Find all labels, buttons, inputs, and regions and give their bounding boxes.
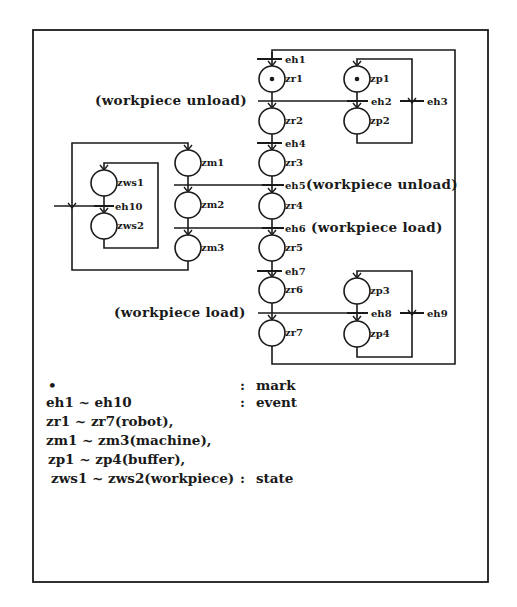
annotation-eh5-workpiece-unload: (workpiece unload): [306, 176, 458, 192]
svg-text:zr1 ~ zr7(robot),: zr1 ~ zr7(robot),: [46, 413, 173, 429]
svg-text:eh6: eh6: [285, 223, 306, 234]
legend: • : mark eh1 ~ eh10 : event zr1 ~ zr7(ro…: [46, 377, 298, 486]
svg-text:eh9: eh9: [427, 308, 448, 319]
svg-text:•: •: [48, 377, 57, 393]
svg-text:mark: mark: [256, 377, 296, 393]
outer-frame: [33, 30, 488, 582]
svg-text:zr2: zr2: [285, 115, 303, 126]
svg-text:zws1 ~ zws2(workpiece): zws1 ~ zws2(workpiece): [51, 470, 234, 486]
svg-text::: :: [240, 394, 245, 410]
svg-text:zp3: zp3: [370, 285, 390, 296]
svg-text::: :: [240, 470, 245, 486]
transition-eh7: eh7: [257, 266, 306, 277]
annotation-eh8-workpiece-load: (workpiece load): [114, 304, 246, 320]
svg-text:event: event: [256, 394, 298, 410]
svg-text:zr7: zr7: [285, 327, 303, 338]
token-mark: [270, 77, 275, 82]
place-zp2: zp2: [344, 108, 390, 134]
annotation-eh6-workpiece-load: (workpiece load): [311, 219, 443, 235]
svg-text:zp2: zp2: [370, 115, 390, 126]
svg-text:eh10: eh10: [115, 201, 143, 212]
svg-text:zp4: zp4: [370, 328, 390, 339]
transition-eh9: eh9: [400, 308, 448, 319]
svg-text:zm1 ~ zm3(machine),: zm1 ~ zm3(machine),: [46, 432, 211, 448]
svg-text:eh8: eh8: [371, 308, 392, 319]
place-zws1: zws1: [91, 170, 144, 196]
svg-text:eh3: eh3: [427, 96, 448, 107]
legend-row-workpiece-state: zws1 ~ zws2(workpiece) : state: [51, 470, 293, 486]
svg-text:state: state: [256, 470, 293, 486]
petri-net-diagram: eh1 eh2 eh3 eh4 eh5 eh6 eh7 eh8: [0, 0, 517, 607]
svg-text:zm2: zm2: [201, 199, 224, 210]
svg-text:eh1 ~ eh10: eh1 ~ eh10: [46, 394, 132, 410]
transition-eh3: eh3: [400, 96, 448, 107]
legend-row-buffer: zp1 ~ zp4(buffer),: [48, 451, 185, 467]
svg-text:zws1: zws1: [117, 177, 144, 188]
svg-text:zm3: zm3: [201, 242, 224, 253]
transition-eh4: eh4: [257, 138, 306, 149]
place-zr3: zr3: [259, 150, 303, 176]
svg-text:eh5: eh5: [285, 180, 306, 191]
svg-text:eh4: eh4: [285, 138, 306, 149]
svg-text:zr3: zr3: [285, 157, 303, 168]
place-zws2: zws2: [91, 213, 144, 239]
token-mark: [355, 77, 360, 82]
place-zm2: zm2: [175, 192, 224, 218]
legend-row-machine: zm1 ~ zm3(machine),: [46, 432, 211, 448]
transition-eh2: eh2: [347, 96, 392, 107]
svg-text:zp1: zp1: [370, 73, 390, 84]
svg-text:zr6: zr6: [285, 284, 303, 295]
annotation-eh2-workpiece-unload: (workpiece unload): [95, 92, 247, 108]
place-zr2: zr2: [259, 108, 303, 134]
legend-row-event: eh1 ~ eh10 : event: [46, 394, 298, 410]
svg-text:zp1 ~ zp4(buffer),: zp1 ~ zp4(buffer),: [48, 451, 185, 467]
svg-text:zws2: zws2: [117, 220, 144, 231]
svg-text:zr5: zr5: [285, 242, 303, 253]
place-zr7: zr7: [259, 320, 303, 346]
svg-text:eh2: eh2: [371, 96, 392, 107]
svg-text:eh7: eh7: [285, 266, 306, 277]
legend-row-robot: zr1 ~ zr7(robot),: [46, 413, 173, 429]
place-zr5: zr5: [259, 235, 303, 261]
place-zp4: zp4: [344, 321, 390, 347]
legend-row-mark: • : mark: [48, 377, 296, 393]
svg-text:zr1: zr1: [285, 73, 303, 84]
place-zm3: zm3: [175, 235, 224, 261]
svg-text:eh1: eh1: [285, 54, 306, 65]
svg-text:zm1: zm1: [201, 157, 224, 168]
svg-text::: :: [240, 377, 245, 393]
place-zp1: zp1: [344, 66, 390, 92]
transition-eh1: eh1: [257, 54, 306, 65]
place-zr6: zr6: [259, 277, 303, 303]
place-zm1: zm1: [175, 150, 224, 176]
place-zp3: zp3: [344, 278, 390, 304]
place-zr4: zr4: [259, 193, 303, 219]
svg-text:zr4: zr4: [285, 200, 303, 211]
place-zr1: zr1: [259, 66, 303, 92]
transition-eh6: eh6: [262, 223, 306, 234]
